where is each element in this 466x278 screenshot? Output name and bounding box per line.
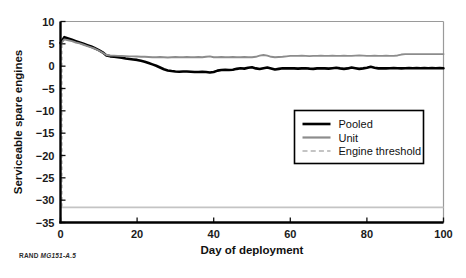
y-axis-tick-label: −25 [36,172,55,184]
serviceable-spare-engines-line-chart: 1050−5−10−15−20−25−30−35020406080100Day … [0,0,466,278]
y-axis-tick-label: −35 [36,217,55,229]
legend-label-engine-threshold: Engine threshold [339,145,422,157]
legend-label-unit: Unit [339,132,359,144]
x-axis-tick-label: 0 [57,228,63,240]
y-axis-tick-label: −10 [36,105,55,117]
y-axis-tick-label: 0 [48,60,54,72]
y-axis-title: Serviceable spare engines [12,50,24,194]
x-axis-tick-label: 80 [361,228,373,240]
x-axis-tick-label: 60 [284,228,296,240]
y-axis-tick-label: −5 [42,83,55,95]
y-axis-tick-label: 5 [48,38,54,50]
y-axis-tick-label: −20 [36,150,55,162]
y-axis-tick-label: −15 [36,127,55,139]
figure-credit: RAND MG151-A.5 [19,252,76,259]
y-axis-tick-label: 10 [42,16,54,28]
figure-credit-brand: RAND [19,252,39,259]
x-axis-title: Day of deployment [201,244,304,256]
figure-credit-id: MG151-A.5 [41,252,76,259]
legend-label-pooled: Pooled [339,118,373,130]
y-axis-tick-label: −30 [36,194,55,206]
x-axis-tick-label: 40 [208,228,220,240]
x-axis-tick-label: 20 [131,228,143,240]
x-axis-tick-label: 100 [434,228,452,240]
figure-container: 1050−5−10−15−20−25−30−35020406080100Day … [0,0,466,278]
